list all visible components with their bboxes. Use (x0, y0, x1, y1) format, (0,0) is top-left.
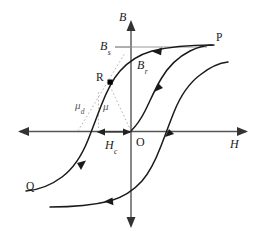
bs-symbol: B (100, 39, 107, 53)
hysteresis-figure: B H O P Q R Bs Br Hc μd μ (0, 0, 262, 239)
point-r-label: R (96, 72, 104, 84)
br-symbol: B (137, 58, 144, 72)
point-p-label: P (216, 32, 222, 44)
hysteresis-curves-group (26, 45, 228, 207)
hc-symbol: H (105, 138, 114, 152)
arrow-initial-curve (154, 83, 163, 92)
br-label: Br (137, 59, 147, 74)
mu-chord-line (108, 82, 131, 131)
point-q-label: Q (26, 181, 34, 193)
descending-branch-curve (26, 45, 212, 191)
hc-measure-group (97, 92, 132, 136)
b-axis-label: B (119, 11, 126, 23)
hc-arrow-right (123, 128, 132, 135)
h-axis-arrow-right (237, 127, 248, 136)
origin-label: O (136, 136, 145, 148)
mu-d-subscript: d (81, 107, 85, 116)
r-point-marker (108, 80, 113, 85)
arrow-ascending-lower (104, 198, 114, 206)
br-subscript: r (145, 67, 148, 76)
mu-label: μ (103, 101, 109, 112)
arrow-descending-upper (152, 48, 162, 56)
hysteresis-plot-canvas (0, 0, 262, 239)
mu-d-symbol: μ (75, 99, 81, 111)
hc-subscript: c (114, 147, 117, 156)
bs-subscript: s (108, 48, 111, 57)
arrow-descending-lower (77, 161, 86, 171)
bs-label: Bs (100, 40, 110, 55)
hc-arrow-left (97, 128, 106, 135)
h-axis-arrow-left (18, 127, 29, 136)
hc-label: Hc (105, 139, 117, 154)
mu-d-label: μd (75, 100, 84, 114)
b-axis-arrow-up (127, 20, 136, 31)
permeability-lines-group (78, 53, 131, 131)
h-axis-label: H (230, 138, 239, 150)
axes-group (18, 20, 248, 228)
mu-d-tangent-line (78, 53, 125, 131)
b-axis-arrow-down (127, 217, 136, 228)
curve-direction-arrows-group (77, 48, 174, 206)
